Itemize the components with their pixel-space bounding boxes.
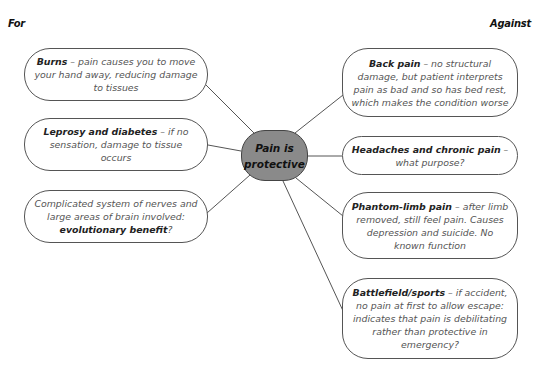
node-title: Headaches and chronic pain	[352, 144, 501, 155]
against-node-back-pain: Back pain – no structural damage, but pa…	[342, 48, 518, 117]
node-title: Battlefield/sports	[352, 287, 445, 298]
node-text: Complicated system of nerves and large a…	[34, 198, 197, 222]
for-node-leprosy: Leprosy and diabetes – if no sensation, …	[24, 118, 208, 171]
link-complicated	[207, 175, 250, 213]
link-burns	[205, 84, 255, 134]
link-phantom	[296, 178, 343, 216]
for-node-burns: Burns – pain causes you to move your han…	[24, 48, 208, 101]
link-back-pain	[295, 95, 343, 133]
node-title: Back pain	[369, 58, 420, 69]
central-node-line2: protective	[244, 156, 305, 172]
node-text: ?	[167, 224, 172, 235]
against-node-headaches: Headaches and chronic pain – what purpos…	[342, 136, 518, 175]
node-title: Leprosy and diabetes	[44, 126, 158, 137]
node-title: Phantom-limb pain	[352, 201, 452, 212]
central-node-line1: Pain is	[244, 140, 305, 156]
node-title: evolutionary benefit	[60, 224, 168, 235]
link-battlefield	[283, 181, 344, 313]
against-node-battlefield: Battlefield/sports – if accident, no pai…	[342, 278, 518, 359]
for-node-complicated-system: Complicated system of nerves and large a…	[24, 190, 208, 243]
node-title: Burns	[37, 56, 68, 67]
against-node-phantom-limb: Phantom-limb pain – after limb removed, …	[342, 192, 518, 259]
central-node: Pain is protective	[241, 130, 308, 181]
link-leprosy	[208, 145, 241, 151]
